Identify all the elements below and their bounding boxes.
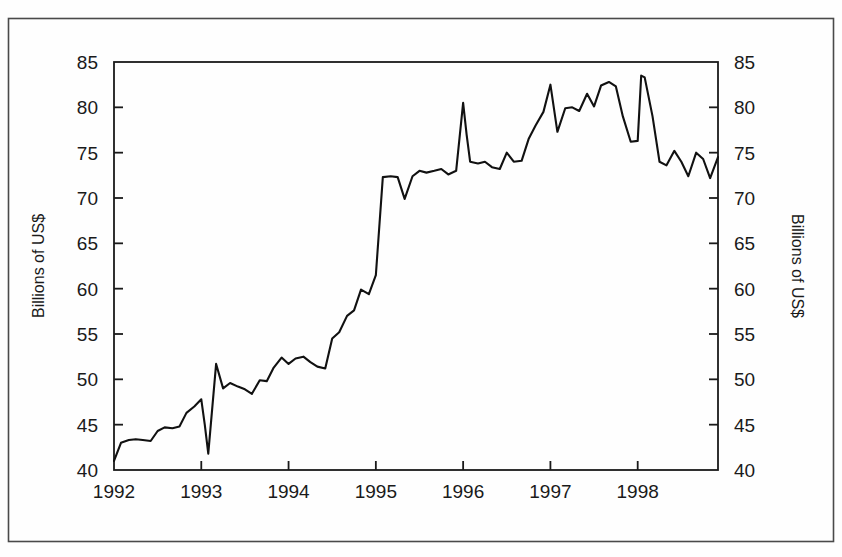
y-tick-label-left: 75 xyxy=(77,143,98,164)
x-tick-label: 1994 xyxy=(267,481,310,502)
y-tick-label-right: 70 xyxy=(734,188,755,209)
x-tick-label: 1995 xyxy=(355,481,397,502)
y-tick-label-left: 60 xyxy=(77,279,98,300)
x-tick-label: 1993 xyxy=(180,481,222,502)
figure-background xyxy=(0,0,842,557)
y-tick-label-right: 80 xyxy=(734,97,755,118)
y-tick-label-right: 45 xyxy=(734,415,755,436)
y-tick-label-right: 50 xyxy=(734,369,755,390)
chart-figure: 40455055606570758085 4045505560657075808… xyxy=(0,0,842,557)
y-tick-label-left: 70 xyxy=(77,188,98,209)
y-tick-label-left: 65 xyxy=(77,233,98,254)
x-tick-label: 1996 xyxy=(442,481,484,502)
x-tick-label: 1998 xyxy=(617,481,659,502)
x-tick-label: 1992 xyxy=(93,481,135,502)
y-tick-label-left: 80 xyxy=(77,97,98,118)
x-tick-label: 1997 xyxy=(529,481,571,502)
y-axis-title-right: Billions of US$ xyxy=(789,214,806,318)
chart-svg: 40455055606570758085 4045505560657075808… xyxy=(0,0,842,557)
y-tick-label-right: 75 xyxy=(734,143,755,164)
y-tick-label-right: 85 xyxy=(734,52,755,73)
y-tick-label-right: 60 xyxy=(734,279,755,300)
y-tick-label-left: 55 xyxy=(77,324,98,345)
y-axis-title-left: Billions of US$ xyxy=(30,214,47,318)
y-tick-label-left: 40 xyxy=(77,460,98,481)
y-tick-label-left: 85 xyxy=(77,52,98,73)
y-tick-label-right: 55 xyxy=(734,324,755,345)
y-tick-label-right: 65 xyxy=(734,233,755,254)
y-tick-label-right: 40 xyxy=(734,460,755,481)
y-tick-label-left: 45 xyxy=(77,415,98,436)
y-tick-label-left: 50 xyxy=(77,369,98,390)
